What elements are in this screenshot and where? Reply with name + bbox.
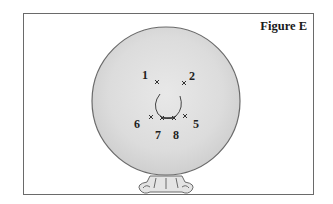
point-label-8: 8 [173,128,179,143]
point-label-5: 5 [193,117,199,132]
crystal-ball [92,27,240,175]
point-label-2: 2 [189,69,195,84]
point-label-6: 6 [134,117,140,132]
point-label-1: 1 [142,68,148,83]
figure-title: Figure E [260,19,307,34]
stand [139,176,193,193]
point-label-7: 7 [155,128,161,143]
